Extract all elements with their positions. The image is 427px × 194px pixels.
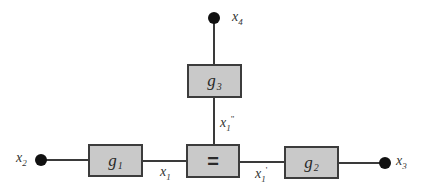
edge-g3-x4 — [213, 18, 215, 65]
g1-sub: 1 — [118, 160, 123, 171]
terminal-x3 — [379, 157, 391, 169]
factor-graph-diagram: g1 = g2 g3 x2 x3 x4 x1 x1' x1" — [0, 0, 427, 194]
terminal-x2 — [35, 154, 47, 166]
edge-g1-equality — [142, 160, 187, 162]
label-x1: x1 — [160, 164, 171, 180]
label-x3: x3 — [396, 153, 407, 169]
x1-prime-sub: 1 — [261, 174, 266, 184]
x1-double-prime-sub: 1 — [226, 123, 231, 133]
label-x1-prime: x1' — [255, 166, 267, 182]
factor-node-g3: g3 — [187, 64, 242, 98]
x4-sub: 4 — [238, 17, 243, 27]
equality-symbol: = — [207, 150, 219, 173]
label-x4: x4 — [232, 9, 243, 25]
g1-base: g — [108, 151, 117, 171]
x2-sub: 2 — [22, 158, 27, 168]
edge-equality-g2 — [239, 161, 285, 163]
g3-base: g — [207, 71, 216, 91]
label-x1-double-prime: x1" — [220, 115, 234, 131]
factor-node-g1: g1 — [88, 144, 143, 177]
edge-g2-x3 — [338, 162, 385, 164]
x1-prime-mark: ' — [266, 165, 268, 175]
g2-base: g — [304, 153, 313, 173]
terminal-x4 — [208, 12, 220, 24]
g2-sub: 2 — [314, 162, 319, 173]
factor-node-g2: g2 — [284, 146, 339, 179]
equality-node: = — [186, 144, 240, 178]
edge-equality-g3 — [213, 97, 215, 145]
x1-double-prime-mark: " — [231, 114, 235, 124]
edge-x2-g1 — [41, 159, 89, 161]
g3-sub: 3 — [217, 81, 222, 92]
label-x2: x2 — [16, 150, 27, 166]
x1-sub: 1 — [166, 172, 171, 182]
x3-sub: 3 — [402, 161, 407, 171]
